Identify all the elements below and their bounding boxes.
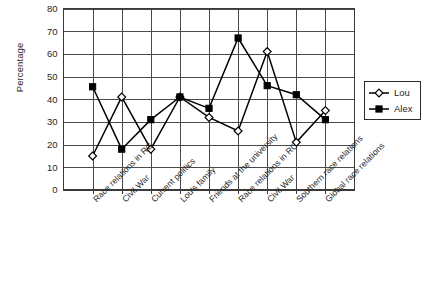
marker-alex-1 — [119, 146, 125, 152]
marker-lou-0 — [89, 152, 97, 160]
legend-label-lou: Lou — [394, 87, 410, 98]
svg-text:40: 40 — [47, 94, 58, 105]
marker-alex-5 — [235, 35, 241, 41]
legend-label-alex: Alex — [394, 103, 413, 114]
marker-alex-0 — [90, 84, 96, 90]
marker-alex-4 — [206, 105, 212, 111]
marker-alex-6 — [264, 83, 270, 89]
svg-text:50: 50 — [47, 71, 58, 82]
svg-text:60: 60 — [47, 48, 58, 59]
svg-text:20: 20 — [47, 139, 58, 150]
marker-alex-8 — [322, 117, 328, 123]
marker-alex-7 — [293, 92, 299, 98]
chart-legend: LouAlex — [365, 82, 421, 120]
line-chart: Percentage 01020304050607080 LouAlex Rac… — [0, 0, 424, 282]
legend-marker-alex — [376, 106, 382, 112]
svg-text:70: 70 — [47, 26, 58, 37]
y-tick-labels: 01020304050607080 — [47, 3, 58, 196]
svg-text:10: 10 — [47, 162, 58, 173]
marker-lou-5 — [234, 127, 242, 135]
svg-text:80: 80 — [47, 3, 58, 14]
svg-text:0: 0 — [52, 184, 57, 195]
marker-alex-3 — [177, 94, 183, 100]
marker-alex-2 — [148, 117, 154, 123]
svg-text:30: 30 — [47, 116, 58, 127]
